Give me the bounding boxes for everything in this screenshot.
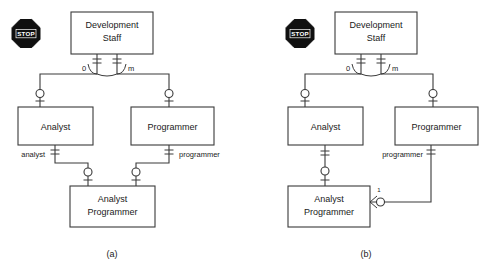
cardinality-label-one-b: 1 (377, 187, 381, 193)
entity-development-staff-b[interactable]: Development Staff (335, 12, 417, 54)
stop-sign-icon-a: STOP (12, 20, 40, 48)
subtype-connector-b: 0 m (305, 54, 433, 88)
relationship-analyst-to-ap-a: analyst (21, 145, 92, 186)
relationship-programmer-to-ap-a: programmer (132, 145, 221, 186)
diagram-b: STOP Development Staff 0 m (286, 12, 478, 259)
cardinality-label-m-b: m (392, 64, 398, 73)
relationship-ap-to-programmer-b: 1 programmer (370, 145, 436, 208)
relationship-analyst-to-ap-b (321, 145, 330, 186)
optional-marker-programmer-a (165, 88, 174, 107)
caption-b: (b) (361, 249, 372, 259)
entity-analyst-a[interactable]: Analyst (18, 107, 93, 145)
caption-a: (a) (107, 249, 118, 259)
entity-programmer-b[interactable]: Programmer (395, 107, 478, 145)
entity-label-line2: Staff (367, 33, 386, 43)
cardinality-label-zero-a: 0 (82, 64, 86, 73)
subtype-connector-a: 0 m (40, 54, 169, 88)
entity-label-ap-b-line1: Analyst (314, 194, 344, 204)
entity-development-staff-a[interactable]: Development Staff (71, 12, 153, 54)
stop-sign-label-b: STOP (291, 30, 309, 37)
stop-sign-label-a: STOP (17, 30, 35, 37)
entity-label-analyst-a: Analyst (41, 122, 71, 132)
entity-label-ap-a-line2: Programmer (87, 207, 137, 217)
role-label-programmer-a: programmer (179, 150, 220, 159)
entity-label-ap-a-line1: Analyst (98, 194, 128, 204)
cardinality-label-m-a: m (128, 64, 134, 73)
optional-marker-analyst-b (301, 88, 310, 107)
entity-label-analyst-b: Analyst (311, 122, 341, 132)
cardinality-label-zero-b: 0 (346, 64, 350, 73)
entity-label-line1: Development (85, 20, 139, 30)
entity-label-programmer-b: Programmer (411, 122, 461, 132)
entity-programmer-a[interactable]: Programmer (131, 107, 214, 145)
optional-marker-programmer-b (429, 88, 438, 107)
stop-sign-icon-b: STOP (286, 20, 314, 48)
entity-label-ap-b-line2: Programmer (304, 207, 354, 217)
entity-analyst-programmer-a[interactable]: Analyst Programmer (70, 186, 155, 227)
role-label-programmer-b: programmer (382, 150, 423, 159)
entity-label-programmer-a: Programmer (147, 122, 197, 132)
diagram-a: STOP Development Staff (12, 12, 220, 259)
optional-marker-analyst-a (36, 88, 45, 107)
entity-label-line1: Development (349, 20, 403, 30)
entity-analyst-programmer-b[interactable]: Analyst Programmer (288, 186, 370, 227)
role-label-analyst-a: analyst (21, 150, 46, 159)
entity-analyst-b[interactable]: Analyst (288, 107, 363, 145)
figure-canvas: STOP Development Staff (0, 0, 486, 272)
entity-label-line2: Staff (103, 33, 122, 43)
